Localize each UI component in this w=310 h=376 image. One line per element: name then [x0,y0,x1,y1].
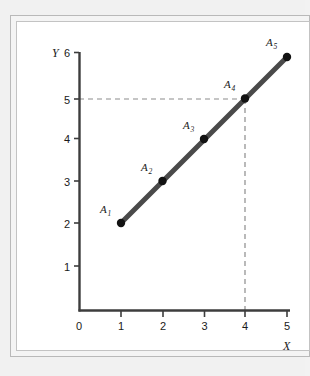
x-tick-label-5: 5 [284,320,290,332]
x-tick-label-1: 1 [118,320,124,332]
data-point-A1[interactable] [117,219,125,227]
x-tick-labels: 0 1 2 3 4 5 [76,320,290,332]
x-tick-label-2: 2 [160,320,166,332]
y-axis-ticks [74,53,79,267]
data-point-label-A1-base: A [99,203,107,215]
x-axis-ticks [121,311,287,317]
axes [74,52,290,317]
x-tick-label-4: 4 [242,320,248,332]
data-point-label-A5: A 5 [265,36,278,51]
data-point-label-A4: A 4 [223,78,236,93]
y-tick-label-5: 5 [64,94,70,106]
data-point-A2[interactable] [158,177,166,185]
data-point-A5[interactable] [283,53,291,61]
y-axis-title: Y [52,46,60,60]
x-tick-label-3: 3 [201,320,207,332]
data-point-A3[interactable] [200,135,208,143]
data-point-label-A2-sub: 2 [149,167,153,176]
plot-svg: 6 5 4 3 2 1 0 1 2 3 4 5 Y X A [0,0,305,376]
data-point-label-A4-sub: 4 [232,84,236,93]
x-axis-title: X [282,339,291,353]
figure-root: 6 5 4 3 2 1 0 1 2 3 4 5 Y X A [0,0,305,376]
data-point-label-A3: A 3 [182,119,195,134]
data-point-label-A2: A 2 [140,161,153,176]
y-tick-label-1: 1 [64,261,70,273]
data-point-labels: A 1 A 2 A 3 A 4 A 5 [99,36,278,218]
data-point-label-A3-sub: 3 [190,125,195,134]
data-point-label-A4-base: A [223,78,231,90]
data-point-label-A5-base: A [265,36,273,48]
y-tick-labels: 6 5 4 3 2 1 [64,47,70,273]
data-point-label-A5-sub: 5 [274,42,278,51]
data-point-label-A1-sub: 1 [108,209,112,218]
data-point-label-A3-base: A [182,119,190,131]
x-tick-label-0: 0 [76,320,82,332]
data-point-label-A2-base: A [140,161,148,173]
scatter-line-plot: 6 5 4 3 2 1 0 1 2 3 4 5 Y X A [0,0,305,376]
y-tick-label-2: 2 [64,218,70,230]
y-tick-label-6: 6 [64,47,70,59]
y-tick-label-4: 4 [64,133,70,145]
data-point-label-A1: A 1 [99,203,111,218]
y-tick-label-3: 3 [64,176,70,188]
data-point-A4[interactable] [241,94,249,102]
